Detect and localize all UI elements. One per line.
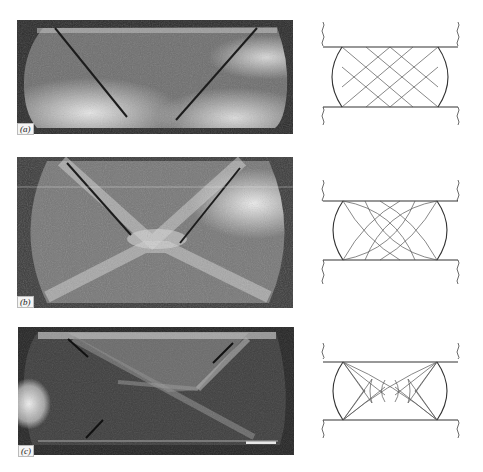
platen-break-top-right — [457, 343, 459, 359]
slip-line-diagram-b — [310, 170, 470, 300]
specimen-right-bulge — [437, 362, 447, 420]
slip-line-diagram-a — [310, 15, 470, 135]
specimen-photo-b — [17, 157, 293, 308]
specimen-left-bulge — [333, 201, 343, 260]
panel-label-b: (b) — [17, 296, 34, 308]
photo-panel-b — [17, 157, 293, 308]
slip-line-diagram-c — [310, 335, 470, 450]
platen-break-top-left — [322, 22, 324, 46]
platen-break-top-right — [457, 180, 459, 201]
platen-break-bottom-left — [322, 107, 324, 125]
specimen-right-bulge — [437, 201, 447, 260]
panel-label-a: (a) — [17, 123, 34, 135]
specimen-right-bulge — [438, 47, 448, 107]
specimen-photo-a — [17, 20, 293, 134]
platen-break-bottom-right — [457, 260, 459, 284]
slip-lines-fan — [343, 362, 437, 420]
panel-label-c: (c) — [18, 445, 34, 457]
platen-break-bottom-left — [322, 260, 324, 284]
platen-break-bottom-left — [322, 420, 324, 438]
slip-lines-curved — [343, 201, 437, 260]
specimen-left-bulge — [333, 362, 343, 420]
slip-lines-straight — [342, 47, 438, 107]
specimen-photo-c — [18, 327, 294, 455]
specimen-left-bulge — [332, 47, 342, 107]
platen-break-top-right — [457, 22, 459, 46]
platen-break-top-left — [322, 180, 324, 201]
platen-break-bottom-right — [457, 420, 459, 438]
platen-break-bottom-right — [457, 107, 459, 125]
photo-panel-c — [18, 327, 294, 455]
platen-break-top-left — [322, 343, 324, 359]
photo-panel-a — [17, 20, 293, 134]
